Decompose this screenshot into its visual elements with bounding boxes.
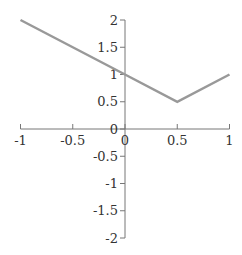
x-tick-label: -1 xyxy=(14,133,27,148)
y-tick-label: -2 xyxy=(105,231,118,246)
x-tick-label: 0.5 xyxy=(167,133,188,148)
y-tick-label: 1.5 xyxy=(97,40,118,55)
x-tick-label: 0 xyxy=(121,133,129,148)
y-tick-label: 0 xyxy=(110,122,118,137)
x-tick-label: 1 xyxy=(225,133,233,148)
y-tick-label: 2 xyxy=(110,13,118,28)
line-chart: -1-0.500.5121.510.50-0.5-1-1.5-2 xyxy=(0,0,242,255)
y-tick-label: -1 xyxy=(105,176,118,191)
axes xyxy=(21,20,230,238)
y-tick-label: -0.5 xyxy=(93,149,118,164)
x-tick-label: -0.5 xyxy=(60,133,85,148)
y-tick-label: 0.5 xyxy=(97,94,118,109)
y-tick-label: -1.5 xyxy=(93,203,118,218)
